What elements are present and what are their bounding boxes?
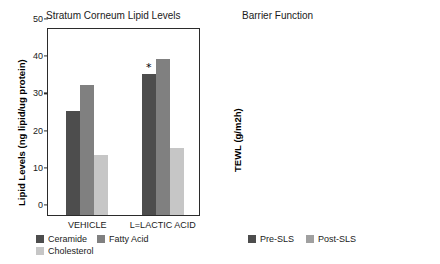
figure: Stratum Corneum Lipid Levels Lipid Level… [0,0,440,264]
y-axis-tick-label: 10 [33,163,48,173]
bar [66,111,80,215]
y-axis-tick-label: 40 [33,51,48,61]
bar [170,148,184,215]
legend-label: Pre-SLS [260,234,294,244]
y-axis-tick-label: 20 [33,126,48,136]
chart-panel-barrier-function: Barrier Function TEWL (g/m2h) 06121824VE… [220,0,440,264]
legend-item: Fatty Acid [97,234,149,244]
y-axis-tick-label: 30 [33,88,48,98]
legend-swatch-icon [97,235,105,243]
legend-swatch-icon [248,235,256,243]
bar [94,155,108,215]
y-axis-label: Lipid Levels (ng lipid/ug protein) [16,59,27,206]
chart-panel-stratum-corneum-lipid-levels: Stratum Corneum Lipid Levels Lipid Level… [0,0,220,264]
legend-item: Pre-SLS [248,234,294,244]
legend-swatch-icon [36,235,44,243]
y-axis-label: TEWL (g/m2h) [232,108,243,172]
legend-label: Fatty Acid [109,234,149,244]
legend-swatch-icon [306,235,314,243]
legend-label: Ceramide [48,234,87,244]
chart-title: Stratum Corneum Lipid Levels [46,10,181,21]
legend-item: Post-SLS [306,234,356,244]
legend-swatch-icon [36,247,44,255]
x-axis-tick-label: L=LACTIC ACID [130,220,196,230]
y-axis-tick-label: 50 [33,14,48,24]
x-axis-tick-label: VEHICLE [68,220,107,230]
y-axis-tick-label: 0 [38,200,48,210]
legend-item: Cholesterol [36,246,94,256]
legend-label: Cholesterol [48,246,94,256]
chart-legend: CeramideFatty AcidCholesterol [36,234,206,256]
bar [156,59,170,215]
legend-item: Ceramide [36,234,87,244]
significance-marker: * [146,62,152,73]
chart-title: Barrier Function [242,10,313,21]
bar [142,74,156,215]
legend-label: Post-SLS [318,234,356,244]
plot-area: 01020304050VEHICLE*L=LACTIC ACID [47,28,200,216]
chart-legend: Pre-SLSPost-SLS [248,234,418,244]
bar [80,85,94,215]
